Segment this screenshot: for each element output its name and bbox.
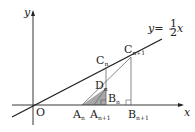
label-Bn: Bn — [108, 92, 120, 105]
y-axis-label: y — [23, 6, 31, 19]
line-label-suffix: x — [177, 22, 184, 35]
geometry-diagram: y x O y= 1 2 x Cn+1 Cn Dn Bn Bn+1 An An+… — [0, 0, 195, 132]
right-angle-Bn1 — [126, 100, 131, 105]
label-An1: An+1 — [89, 108, 111, 121]
line-label-prefix: y= — [147, 22, 163, 35]
x-axis-label: x — [184, 106, 191, 119]
label-Cn: Cn — [96, 54, 108, 67]
label-Cn1: Cn+1 — [124, 43, 145, 56]
y-axis-arrow-icon — [31, 10, 35, 16]
label-An: An — [72, 108, 85, 121]
origin-label: O — [36, 106, 45, 119]
line-label-denominator: 2 — [170, 26, 177, 39]
label-Bn1: Bn+1 — [128, 108, 149, 121]
